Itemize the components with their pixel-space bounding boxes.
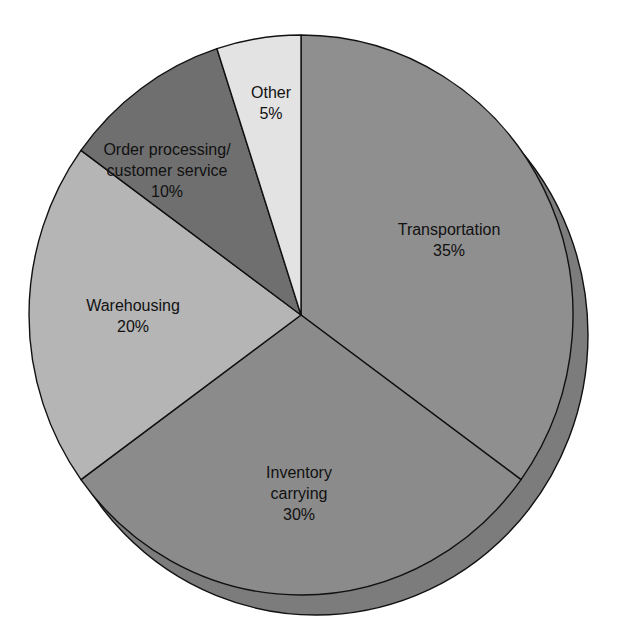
pie-chart: Transportation35%Inventorycarrying30%War… (0, 0, 617, 636)
